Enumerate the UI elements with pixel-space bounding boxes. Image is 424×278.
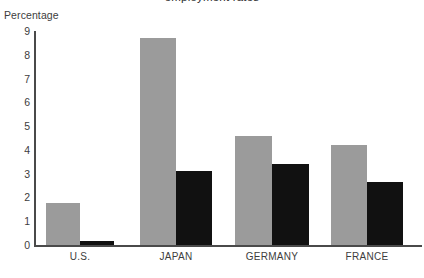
bar-gray-germany — [235, 136, 272, 245]
bar-black-france — [367, 182, 403, 245]
x-axis-label-france: FRANCE — [331, 251, 403, 262]
x-axis-label-germany: GERMANY — [235, 251, 309, 262]
x-axis-label-us: U.S. — [46, 251, 114, 262]
plot-area: 9876543210 U.S.JAPANGERMANYFRANCE — [0, 0, 424, 278]
bar-chart: employment rates Percentage 9876543210 U… — [0, 0, 424, 278]
bar-black-japan — [176, 171, 212, 245]
bars-layer — [0, 0, 424, 278]
bar-gray-us — [46, 203, 80, 245]
bar-gray-japan — [140, 38, 176, 245]
x-axis-label-japan: JAPAN — [140, 251, 212, 262]
bar-black-germany — [272, 164, 309, 245]
bar-gray-france — [331, 145, 367, 245]
bar-black-us — [80, 241, 114, 245]
